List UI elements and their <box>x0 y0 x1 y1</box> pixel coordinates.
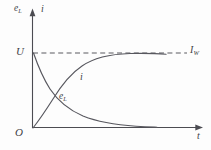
curve-current-i <box>33 53 166 128</box>
curve-label-eL-subscript: L <box>63 95 67 102</box>
y-axis-label-current: i <box>41 4 44 14</box>
x-axis-label-time: t <box>197 131 200 141</box>
curve-label-eL: eL <box>59 92 67 102</box>
y-axis-tick-label-U: U <box>16 46 24 57</box>
origin-label: O <box>15 127 23 138</box>
y-axis-label-emf: eL <box>14 4 22 14</box>
y-axis-label-emf-subscript: L <box>18 7 22 14</box>
asymptote-label-IW: IW <box>190 45 199 56</box>
asymptote-label-IW-subscript: W <box>193 49 199 56</box>
y-axis-arrowhead <box>30 9 36 17</box>
curve-emf-eL <box>34 53 158 127</box>
chart-canvas <box>0 0 211 150</box>
curve-label-i: i <box>80 72 83 82</box>
exponential-rc-rl-transient-chart: eL i U IW i eL O t <box>0 0 211 150</box>
